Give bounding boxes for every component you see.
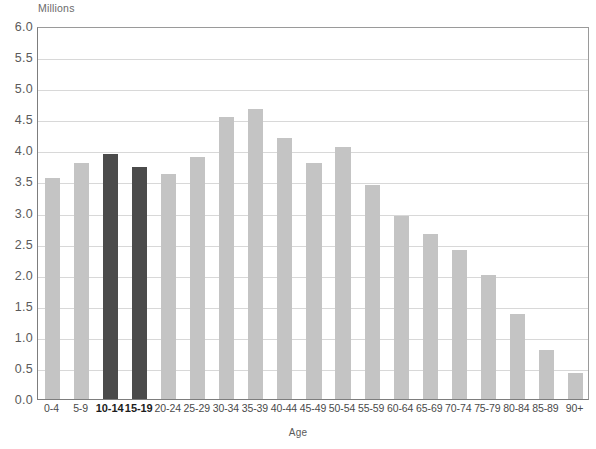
x-axis-tick-labels: 0-45-910-1415-1920-2425-2930-3435-3940-4…: [37, 402, 589, 420]
x-axis-tick-label-20-24: 20-24: [153, 402, 182, 414]
bars-layer: [38, 28, 588, 399]
y-axis-tick-label: 5.5: [0, 51, 33, 65]
bar-15-19[interactable]: [132, 167, 147, 400]
x-axis-tick-label-90plus: 90+: [560, 402, 589, 414]
bar-25-29[interactable]: [190, 157, 205, 399]
bar-85-89[interactable]: [539, 350, 554, 399]
bar-75-79[interactable]: [481, 275, 496, 399]
bar-60-64[interactable]: [394, 216, 409, 399]
bar-5-9[interactable]: [74, 163, 89, 399]
x-axis-tick-label-60-64: 60-64: [386, 402, 415, 414]
y-axis-tick-label: 1.5: [0, 300, 33, 314]
y-axis-tick-label: 3.5: [0, 175, 33, 189]
x-axis-tick-label-0-4: 0-4: [37, 402, 66, 414]
x-axis-tick-label-80-84: 80-84: [502, 402, 531, 414]
y-axis-tick-label: 4.5: [0, 113, 33, 127]
y-axis-tick-label: 0.5: [0, 362, 33, 376]
y-axis-tick-label: 3.0: [0, 207, 33, 221]
x-axis-tick-label-55-59: 55-59: [357, 402, 386, 414]
y-axis-tick-label: 0.0: [0, 393, 33, 407]
bar-30-34[interactable]: [219, 117, 234, 399]
x-axis-tick-label-5-9: 5-9: [66, 402, 95, 414]
x-axis-tick-label-50-54: 50-54: [328, 402, 357, 414]
x-axis-tick-label-85-89: 85-89: [531, 402, 560, 414]
x-axis-tick-label-45-49: 45-49: [298, 402, 327, 414]
y-axis-tick-label: 2.5: [0, 238, 33, 252]
age-distribution-bar-chart: Millions 6.05.55.04.54.03.53.02.52.01.51…: [0, 0, 596, 449]
bar-45-49[interactable]: [306, 163, 321, 399]
x-axis-tick-label-30-34: 30-34: [211, 402, 240, 414]
y-axis-tick-labels: 6.05.55.04.54.03.53.02.52.01.51.00.50.0: [0, 27, 33, 400]
bar-70-74[interactable]: [452, 250, 467, 399]
x-axis-tick-label-75-79: 75-79: [473, 402, 502, 414]
x-axis-tick-label-40-44: 40-44: [269, 402, 298, 414]
x-axis-tick-label-10-14: 10-14: [95, 402, 124, 414]
x-axis-tick-label-15-19: 15-19: [124, 402, 153, 414]
y-axis-tick-label: 4.0: [0, 144, 33, 158]
x-axis-tick-label-70-74: 70-74: [444, 402, 473, 414]
y-axis-tick-label: 6.0: [0, 20, 33, 34]
bar-10-14[interactable]: [103, 154, 118, 399]
y-axis-tick-label: 2.0: [0, 269, 33, 283]
bar-0-4[interactable]: [45, 178, 60, 399]
y-axis-unit-label: Millions: [38, 2, 75, 14]
bar-65-69[interactable]: [423, 234, 438, 399]
plot-area: [37, 27, 589, 400]
y-axis-tick-label: 1.0: [0, 331, 33, 345]
x-axis-title: Age: [0, 427, 596, 438]
bar-20-24[interactable]: [161, 174, 176, 399]
bar-80-84[interactable]: [510, 314, 525, 399]
bar-50-54[interactable]: [335, 147, 350, 399]
x-axis-tick-label-25-29: 25-29: [182, 402, 211, 414]
x-axis-tick-label-35-39: 35-39: [240, 402, 269, 414]
bar-55-59[interactable]: [365, 185, 380, 399]
x-axis-tick-label-65-69: 65-69: [415, 402, 444, 414]
y-axis-tick-label: 5.0: [0, 82, 33, 96]
bar-90plus[interactable]: [568, 373, 583, 399]
bar-40-44[interactable]: [277, 138, 292, 399]
bar-35-39[interactable]: [248, 109, 263, 399]
